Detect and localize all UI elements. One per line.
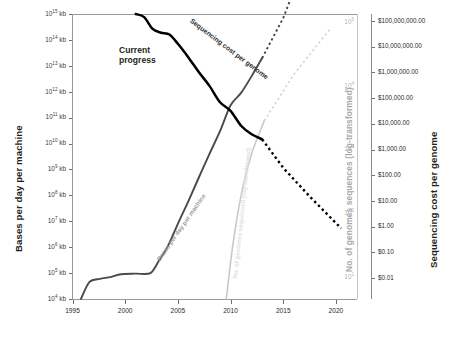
series-genomes-sequenced-projection [264, 28, 330, 121]
current-progress-line2: progress [119, 55, 156, 65]
chart-figure: Bases per day per machine No. of genomes… [0, 0, 452, 342]
current-progress-line1: Current [119, 45, 156, 55]
series-sequencing-cost [136, 14, 262, 139]
series-bases-per-day-projection [262, 0, 304, 58]
series-sequencing-cost-projection [262, 139, 341, 228]
current-progress-annotation: Current progress [119, 45, 156, 65]
